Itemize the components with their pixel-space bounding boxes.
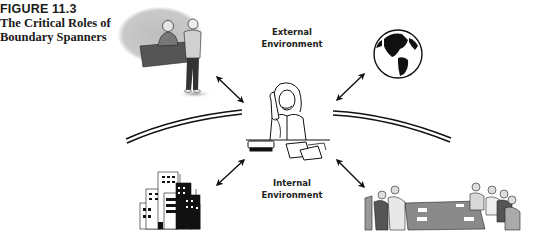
internal-label-line2: Environment — [252, 189, 332, 201]
internal-label-line1: Internal — [252, 177, 332, 189]
building-icon — [140, 172, 200, 229]
globe-icon — [374, 30, 422, 78]
arrow-bottom-right — [337, 160, 364, 187]
people-meeting-icon — [118, 7, 213, 98]
boundary-line-left — [126, 110, 242, 143]
woman-on-phone-icon — [246, 83, 330, 160]
internal-environment-label: Internal Environment — [252, 177, 332, 201]
arrow-bottom-left — [217, 160, 244, 185]
arrow-top-left — [217, 77, 243, 102]
external-environment-label: External Environment — [252, 26, 332, 50]
conference-meeting-icon — [365, 183, 520, 230]
arrow-top-right — [337, 74, 364, 100]
boundary-line-right — [333, 111, 451, 142]
external-label-line2: Environment — [252, 38, 332, 50]
external-label-line1: External — [252, 26, 332, 38]
